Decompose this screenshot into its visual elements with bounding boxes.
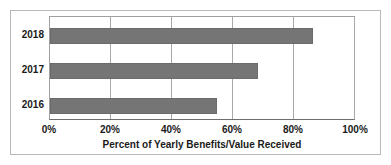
category-label-2017: 2017 bbox=[0, 64, 44, 75]
xtick-label-80: 80% bbox=[268, 124, 318, 135]
category-label-2016: 2016 bbox=[0, 99, 44, 110]
x-axis-title: Percent of Yearly Benefits/Value Receive… bbox=[49, 139, 355, 150]
xtick-label-60: 60% bbox=[207, 124, 257, 135]
gridline-100 bbox=[354, 17, 355, 119]
xtick-label-20: 20% bbox=[85, 124, 135, 135]
xtick-label-0: 0% bbox=[24, 124, 74, 135]
bar-chart-figure: 2018 2017 2016 0% 20% 40% 60% 80% 100% P… bbox=[0, 0, 391, 165]
bar-2016[interactable] bbox=[50, 98, 217, 114]
bar-2018[interactable] bbox=[50, 28, 313, 44]
plot-area bbox=[49, 16, 355, 120]
category-label-2018: 2018 bbox=[0, 29, 44, 40]
xtick-label-100: 100% bbox=[330, 124, 380, 135]
xtick-label-40: 40% bbox=[146, 124, 196, 135]
bar-2017[interactable] bbox=[50, 63, 258, 79]
